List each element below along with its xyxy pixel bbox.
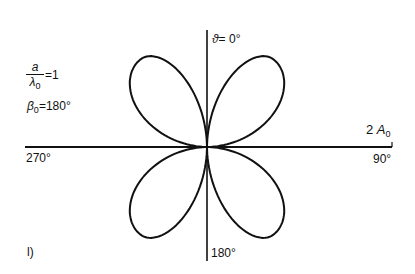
ratio-denominator: λ0 xyxy=(26,76,44,89)
lobe-lower-left xyxy=(130,147,207,238)
beta-parameter: β0=180° xyxy=(27,100,71,113)
radiation-pattern-diagram xyxy=(0,0,415,274)
ratio-fraction: a λ0 xyxy=(26,61,44,89)
lobe-upper-right xyxy=(207,56,284,147)
amplitude-subscript: 0 xyxy=(386,129,391,139)
bottom-axis-label: 180° xyxy=(211,247,236,259)
ratio-numerator: a xyxy=(26,61,44,73)
left-axis-label: 270° xyxy=(26,152,51,164)
theta-symbol: ϑ xyxy=(212,32,219,46)
beta-value: =180° xyxy=(39,99,71,113)
theta-value: = 0° xyxy=(219,32,241,46)
scale-factor: 2 xyxy=(366,122,373,137)
scale-label: 2 A0 xyxy=(366,124,391,137)
lobe-lower-right xyxy=(207,147,284,238)
beta-subscript: 0 xyxy=(34,105,39,115)
ratio-value: =1 xyxy=(45,69,59,81)
right-axis-label: 90° xyxy=(373,153,391,165)
beta-symbol: β xyxy=(27,99,34,113)
amplitude-symbol: A xyxy=(377,122,386,137)
lobe-upper-left xyxy=(130,56,207,147)
top-axis-label: ϑ= 0° xyxy=(212,33,240,45)
panel-label: l) xyxy=(27,246,34,258)
lambda-subscript: 0 xyxy=(35,81,40,91)
